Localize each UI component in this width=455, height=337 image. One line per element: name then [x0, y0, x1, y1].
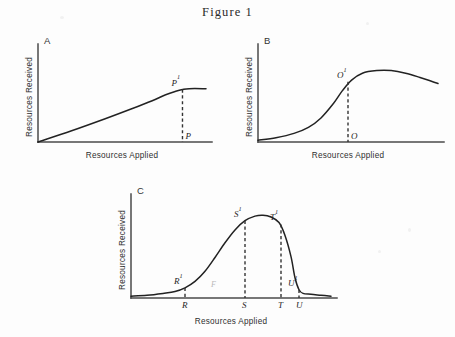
y-axis-title: Resources Received — [25, 57, 34, 137]
curve-point-superscript: 1 — [275, 208, 278, 215]
y-axis-title: Resources Received — [118, 210, 127, 290]
axis-point-label: R — [181, 300, 188, 310]
curve-point-superscript: 1 — [344, 65, 347, 72]
panel-letter: C — [137, 185, 144, 196]
panel-letter: A — [44, 35, 51, 46]
curve-point-label: R1 — [173, 271, 183, 286]
panel-a: AP1PResources AppliedResources Received — [14, 30, 214, 170]
curve-point-label: O1 — [337, 65, 347, 80]
axis-point-label: T — [278, 300, 284, 310]
axis-point-label: U — [296, 300, 303, 310]
scan-speck — [378, 250, 381, 253]
curve-point-superscript: 1 — [295, 273, 298, 280]
curve-point-superscript: 1 — [177, 73, 180, 80]
curve-point-superscript: 1 — [239, 204, 242, 211]
panel-c-plot: CR1RS1ST1TU1UFResources AppliedResources… — [105, 180, 340, 330]
panel-b-plot: BO1OResources AppliedResources Received — [234, 30, 444, 170]
scan-speck — [408, 228, 411, 232]
panel-letter: B — [264, 35, 270, 46]
response-curve — [131, 215, 331, 296]
x-axis-title: Resources Applied — [195, 317, 268, 326]
axis-point-label: S — [242, 300, 247, 310]
scan-speck — [366, 22, 369, 25]
curve-point-label: S1 — [234, 204, 242, 219]
panel-b: BO1OResources AppliedResources Received — [234, 30, 444, 170]
panel-c: CR1RS1ST1TU1UFResources AppliedResources… — [105, 180, 340, 330]
panel-a-plot: AP1PResources AppliedResources Received — [14, 30, 214, 170]
axis-point-label: P — [184, 131, 191, 141]
curve-point-superscript: 1 — [180, 271, 183, 278]
figure-title: Figure 1 — [0, 5, 455, 20]
figure-root: Figure 1 AP1PResources AppliedResources … — [0, 0, 455, 337]
response-curve — [38, 89, 206, 142]
curve-point-label: P1 — [170, 73, 180, 88]
faint-scan-mark: F — [210, 280, 216, 289]
x-axis-title: Resources Applied — [86, 151, 159, 160]
axis-point-label: O — [351, 131, 358, 141]
y-axis-title: Resources Received — [245, 57, 254, 137]
x-axis-title: Resources Applied — [312, 151, 385, 160]
